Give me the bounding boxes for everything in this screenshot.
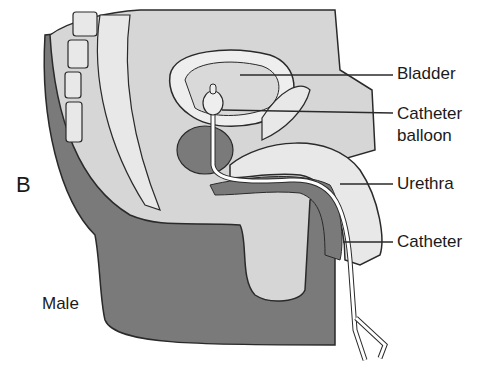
prostate bbox=[177, 126, 233, 174]
label-bladder: Bladder bbox=[397, 64, 456, 84]
subject-label: Male bbox=[42, 294, 79, 314]
panel-letter: B bbox=[16, 172, 31, 198]
label-catheter-balloon-line1: Catheter bbox=[397, 104, 462, 124]
label-urethra: Urethra bbox=[397, 174, 454, 194]
label-catheter-balloon-line2: balloon bbox=[397, 126, 452, 146]
catheter-balloon-shape bbox=[203, 91, 223, 115]
label-catheter: Catheter bbox=[397, 232, 462, 252]
